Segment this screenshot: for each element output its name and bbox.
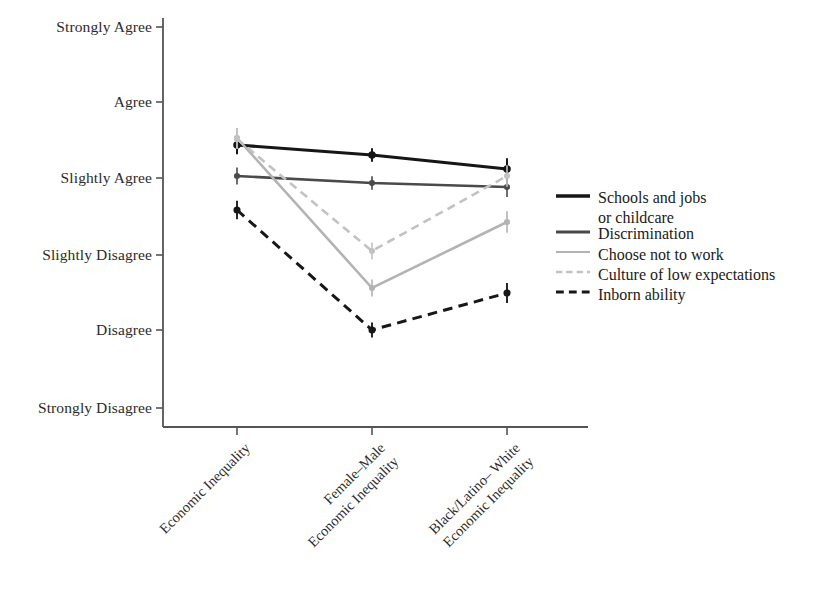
- y-axis-label-2: Slightly Agree: [61, 169, 152, 187]
- data-point: [369, 248, 375, 254]
- data-point: [234, 136, 240, 142]
- series-4: [233, 201, 510, 338]
- data-point: [503, 289, 510, 296]
- y-axis-label-1: Agree: [114, 93, 152, 111]
- series-0: [233, 136, 511, 180]
- legend-label: Choose not to work: [598, 245, 724, 265]
- legend-label: Culture of low expectations: [598, 265, 775, 285]
- legend-item-0[interactable]: Schools and jobsor childcare: [598, 188, 706, 229]
- data-point: [234, 173, 240, 179]
- legend-item-2[interactable]: Choose not to work: [598, 245, 724, 265]
- legend-item-3[interactable]: Culture of low expectations: [598, 265, 775, 285]
- legend-label: Inborn ability: [598, 285, 686, 305]
- data-point: [504, 173, 510, 179]
- legend-label: Discrimination: [598, 224, 694, 244]
- y-axis-label-5: Strongly Disagree: [38, 399, 152, 417]
- chart-canvas: [0, 0, 821, 601]
- data-point: [368, 326, 375, 333]
- data-point: [369, 285, 375, 291]
- y-axis-label-0: Strongly Agree: [56, 18, 152, 36]
- series-line: [237, 210, 507, 330]
- legend-label: Schools and jobs: [598, 188, 706, 208]
- likert-line-chart: Strongly AgreeAgreeSlightly AgreeSlightl…: [0, 0, 821, 601]
- data-point: [368, 151, 376, 159]
- y-axis-label-4: Disagree: [96, 321, 152, 339]
- legend-item-1[interactable]: Discrimination: [598, 224, 694, 244]
- data-point: [233, 206, 240, 213]
- data-point: [504, 219, 510, 225]
- y-axis-label-3: Slightly Disagree: [42, 246, 152, 264]
- legend-item-4[interactable]: Inborn ability: [598, 285, 686, 305]
- data-point: [369, 180, 375, 186]
